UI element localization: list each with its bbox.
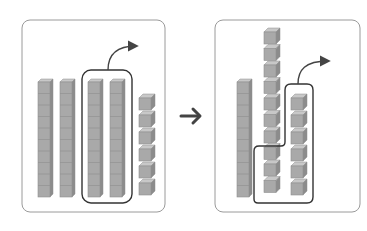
regrouping-diagram (0, 0, 367, 231)
transition-arrow-icon (181, 109, 200, 123)
right-panel (215, 20, 360, 212)
right-broken-rod-cubes (264, 28, 280, 193)
left-panel (22, 20, 165, 212)
right-tens-rod (237, 79, 252, 197)
